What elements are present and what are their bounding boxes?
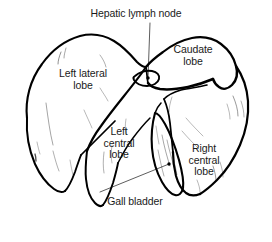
figure-background xyxy=(0,0,272,242)
liver-diagram-svg xyxy=(0,0,272,242)
liver-anatomy-figure: Hepatic lymph node Caudate lobe Left lat… xyxy=(0,0,272,242)
